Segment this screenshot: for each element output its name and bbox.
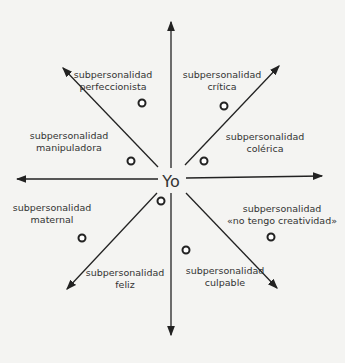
label-colerica: subpersonalidad colérica [226, 131, 305, 155]
marker-no-tengo-creatividad [157, 197, 166, 206]
marker-culpable [182, 246, 191, 255]
label-manipuladora: subpersonalidad manipuladora [30, 130, 109, 154]
label-line: subpersonalidad [13, 202, 92, 214]
label-line: colérica [226, 143, 305, 155]
label-line: subpersonalidad [183, 69, 262, 81]
label-no-tengo-creatividad: subpersonalidad «no tengo creatividad» [227, 203, 337, 227]
marker-maternal [78, 234, 87, 243]
label-line: subpersonalidad [186, 265, 265, 277]
label-line: perfeccionista [74, 81, 153, 93]
marker-critica [220, 102, 229, 111]
label-culpable: subpersonalidad culpable [186, 265, 265, 289]
marker-manipuladora [127, 157, 136, 166]
marker-perfeccionista [138, 99, 147, 108]
label-line: subpersonalidad [30, 130, 109, 142]
label-perfeccionista: subpersonalidad perfeccionista [74, 69, 153, 93]
label-line: crítica [183, 81, 262, 93]
marker-lower-right [267, 233, 276, 242]
arrow-right [186, 176, 322, 178]
marker-colerica [200, 157, 209, 166]
label-line: culpable [186, 277, 265, 289]
label-line: subpersonalidad [226, 131, 305, 143]
label-line: maternal [13, 214, 92, 226]
label-line: «no tengo creatividad» [227, 215, 337, 227]
center-label-yo: Yo [162, 172, 179, 191]
label-line: feliz [86, 279, 165, 291]
label-line: subpersonalidad [227, 203, 337, 215]
label-maternal: subpersonalidad maternal [13, 202, 92, 226]
label-line: manipuladora [30, 142, 109, 154]
label-critica: subpersonalidad crítica [183, 69, 262, 93]
label-line: subpersonalidad [74, 69, 153, 81]
label-feliz: subpersonalidad feliz [86, 267, 165, 291]
label-line: subpersonalidad [86, 267, 165, 279]
